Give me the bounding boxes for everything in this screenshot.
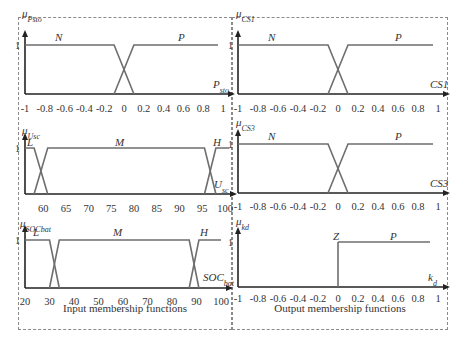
x-tick-label: 75 xyxy=(106,203,117,214)
x-tick-label: -0.6 xyxy=(56,103,73,114)
x-tick-label: -0.4 xyxy=(290,201,307,212)
x-tick-label: 65 xyxy=(61,203,72,214)
x-tick-label: -0.2 xyxy=(310,201,327,212)
y-tick-label: 1 xyxy=(15,235,20,246)
x-tick-label: 1 xyxy=(220,103,225,114)
x-axis-label: Usc xyxy=(214,178,229,195)
y-axis-arrow-icon xyxy=(235,227,241,234)
x-axis-label: CS3 xyxy=(430,177,449,189)
mf-label-h: H xyxy=(199,226,209,238)
y-axis-arrow-icon xyxy=(22,30,28,37)
y-axis-arrow-icon xyxy=(235,30,241,37)
x-axis-label: kd xyxy=(428,271,438,288)
y-tick-label: 1 xyxy=(228,40,233,51)
mf-label-n: N xyxy=(267,130,276,142)
x-tick-label: 0.8 xyxy=(411,103,424,114)
membership-function-plots: 1μPstoPsto-1-0.8-0.6-0.4-0.200.20.40.60.… xyxy=(0,0,464,337)
mf-label-p: P xyxy=(177,31,185,43)
x-tick-label: 90 xyxy=(174,203,185,214)
x-tick-label: 0.8 xyxy=(197,103,210,114)
x-tick-label: -0.6 xyxy=(270,103,287,114)
mf-label-h: H xyxy=(212,136,222,148)
mf-label-n: N xyxy=(54,31,63,43)
mf-label-n: N xyxy=(267,31,276,43)
chart-usc: 1μUscUsc6065707580859095100LMH xyxy=(15,124,237,214)
x-axis-arrow-icon xyxy=(230,191,237,197)
x-tick-label: -0.4 xyxy=(290,103,307,114)
x-tick-label: 0.6 xyxy=(391,201,404,212)
x-tick-label: -1 xyxy=(234,201,243,212)
y-tick-label: 1 xyxy=(228,237,233,248)
chart-socbat: 1μSOCbatSOCbat2030405060708090100LMH xyxy=(15,217,235,307)
mf-label-p: P xyxy=(394,31,402,43)
x-tick-label: 0 xyxy=(335,201,340,212)
mf-label-l: L xyxy=(26,136,33,148)
chart-psto: 1μPstoPsto-1-0.8-0.6-0.4-0.200.20.40.60.… xyxy=(15,7,235,114)
y-tick-label: 1 xyxy=(15,40,20,51)
mf-label-z: Z xyxy=(333,230,340,242)
x-tick-label: 0.2 xyxy=(137,103,150,114)
y-tick-label: 1 xyxy=(228,139,233,150)
x-tick-label: -0.8 xyxy=(36,103,53,114)
x-axis-arrow-icon xyxy=(443,91,450,97)
mf-curve-p xyxy=(328,45,433,94)
mf-label-m: M xyxy=(112,226,123,238)
x-tick-label: 0.6 xyxy=(177,103,190,114)
x-tick-label: 70 xyxy=(83,203,94,214)
y-tick-label: 1 xyxy=(15,143,20,154)
x-tick-label: 1 xyxy=(435,103,440,114)
x-axis-label: CS1 xyxy=(430,78,448,90)
x-tick-label: -0.8 xyxy=(250,103,267,114)
chart-cs1: 1μCS1CS1-1-0.8-0.6-0.4-0.200.20.40.60.81… xyxy=(228,7,450,114)
x-tick-label: 0.4 xyxy=(371,103,385,114)
chart-cs3: 1μCS3CS3-1-0.8-0.6-0.4-0.200.20.40.60.81… xyxy=(228,116,450,212)
x-tick-label: 0 xyxy=(335,103,340,114)
x-tick-label: -0.8 xyxy=(250,201,267,212)
x-tick-label: -0.2 xyxy=(96,103,113,114)
x-tick-label: 95 xyxy=(197,203,208,214)
x-tick-label: -0.2 xyxy=(310,103,327,114)
mf-curve-p xyxy=(328,144,433,193)
mf-curve-m xyxy=(34,148,216,194)
x-tick-label: 85 xyxy=(152,203,163,214)
mf-label-l: L xyxy=(32,226,39,238)
x-tick-label: 60 xyxy=(38,203,49,214)
x-tick-label: 0.4 xyxy=(371,201,385,212)
mf-label-m: M xyxy=(114,136,125,148)
x-tick-label: 0.8 xyxy=(411,201,424,212)
x-tick-label: 80 xyxy=(129,203,140,214)
x-tick-label: 1 xyxy=(435,201,440,212)
x-axis-arrow-icon xyxy=(443,190,450,196)
x-axis-label: SOCbat xyxy=(203,271,235,288)
x-tick-label: -1 xyxy=(234,103,243,114)
chart-kd: 1μkdkd-1-0.8-0.6-0.4-0.200.20.40.60.81ZP xyxy=(228,215,450,304)
x-tick-label: -1 xyxy=(21,103,30,114)
x-tick-label: -0.4 xyxy=(76,103,93,114)
y-axis-label: μCS1 xyxy=(235,7,255,24)
mf-label-p: P xyxy=(394,130,402,142)
mf-curve-p xyxy=(114,45,218,94)
x-tick-label: 0 xyxy=(121,103,126,114)
x-axis-arrow-icon xyxy=(443,284,450,290)
x-tick-label: 0.6 xyxy=(391,103,404,114)
x-axis-label: Psto xyxy=(212,78,229,95)
input-caption: Input membership functions xyxy=(18,302,232,314)
x-tick-label: 100 xyxy=(217,203,233,214)
mf-curve-m xyxy=(50,240,199,288)
x-tick-label: 0.2 xyxy=(351,103,364,114)
x-tick-label: 0.4 xyxy=(157,103,171,114)
mf-label-p: P xyxy=(389,230,397,242)
output-caption: Output membership functions xyxy=(232,302,448,314)
y-axis-arrow-icon xyxy=(235,129,241,136)
x-tick-label: 0.2 xyxy=(351,201,364,212)
x-tick-label: -0.6 xyxy=(270,201,287,212)
y-axis-label: μPsto xyxy=(21,7,42,24)
